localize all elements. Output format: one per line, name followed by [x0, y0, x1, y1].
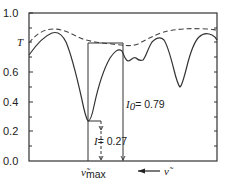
x-tick-numax: ν̃max — [81, 166, 106, 180]
y-tick-0.2: 0.2 — [3, 125, 18, 137]
y-tick-0.4: 0.4 — [3, 96, 18, 108]
x-axis-nu-label: ν̃ — [164, 165, 174, 177]
arrow-left-icon — [138, 169, 145, 174]
y-tick-1.0: 1.0 — [3, 7, 18, 19]
y-axis-symbol: T — [17, 36, 24, 48]
chart: 1.0 T 0.6 0.4 0.2 0.0 I0= 0.79 I= 0.27 ν… — [0, 0, 229, 183]
y-tick-0.6: 0.6 — [3, 66, 18, 78]
I-label: I= 0.27 — [93, 135, 127, 147]
y-tick-0.0: 0.0 — [3, 155, 18, 167]
I0-label: I0= 0.79 — [125, 98, 165, 112]
